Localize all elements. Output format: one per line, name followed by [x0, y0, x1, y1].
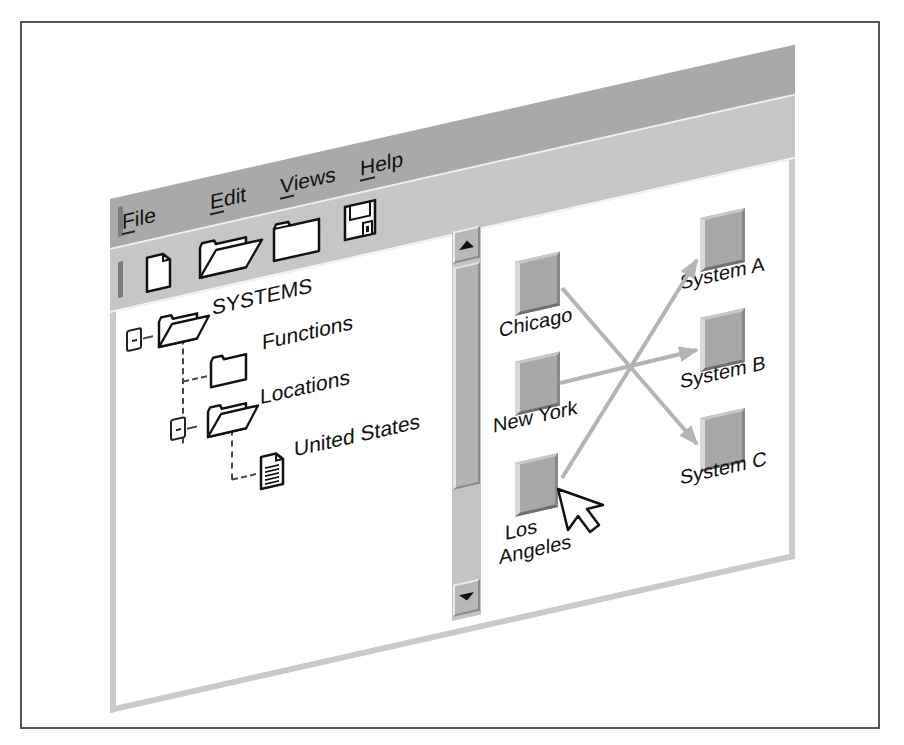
menu-edit[interactable]: Edit: [210, 182, 246, 214]
new-document-icon: [145, 248, 173, 294]
collapse-systems-toggle[interactable]: [126, 327, 142, 353]
tree-node-functions[interactable]: [209, 346, 249, 395]
menu-help-mnemonic: H: [360, 153, 375, 181]
tree-label-united-states[interactable]: United States: [294, 409, 420, 461]
tree-connector: [143, 335, 153, 339]
save-disk-icon: [343, 198, 377, 244]
mapping-diagram: Chicago New York Los Angeles System A Sy…: [481, 160, 789, 623]
tree-node-systems[interactable]: [157, 302, 211, 354]
closed-folder-icon: [209, 346, 249, 391]
vertical-scrollbar[interactable]: [452, 225, 481, 621]
tree-label-functions[interactable]: Functions: [262, 310, 353, 355]
tree-connector: [232, 473, 256, 480]
closed-folder-button[interactable]: [272, 210, 322, 269]
tree-view: SYSTEMS Functions Locations: [116, 236, 452, 706]
menu-views-label: iews: [294, 162, 336, 194]
scroll-up-button[interactable]: [453, 226, 480, 264]
tree-connector: [187, 425, 197, 429]
collapse-locations-toggle[interactable]: [170, 416, 186, 442]
open-folder-icon: [206, 392, 260, 440]
source-node-los-angeles[interactable]: [515, 453, 558, 517]
menu-views[interactable]: Views: [280, 162, 336, 199]
closed-folder-icon: [272, 210, 322, 265]
menu-file-label: ile: [135, 203, 156, 231]
menu-file-mnemonic: F: [122, 207, 135, 235]
scroll-thumb[interactable]: [453, 262, 480, 490]
menu-edit-mnemonic: E: [210, 187, 224, 215]
menu-help[interactable]: Help: [360, 147, 403, 181]
open-folder-icon: [198, 223, 264, 282]
menu-views-mnemonic: V: [280, 172, 294, 200]
menu-help-label: elp: [375, 147, 403, 176]
arrow-down-icon: [455, 581, 478, 614]
open-folder-button[interactable]: [198, 223, 264, 286]
document-icon: [259, 450, 285, 492]
save-button[interactable]: [343, 198, 377, 248]
tree-node-united-states[interactable]: [259, 450, 285, 496]
tree-connector: [183, 375, 207, 382]
tree-node-locations[interactable]: [206, 392, 260, 444]
menu-file[interactable]: File: [122, 203, 156, 235]
arrow-up-icon: [455, 228, 478, 261]
scroll-down-button[interactable]: [453, 579, 480, 617]
toolbar-grip-handle[interactable]: [118, 261, 123, 298]
tree-label-locations[interactable]: Locations: [260, 365, 350, 409]
menu-edit-label: dit: [224, 182, 246, 210]
open-folder-icon: [157, 302, 211, 350]
new-document-button[interactable]: [145, 248, 173, 298]
